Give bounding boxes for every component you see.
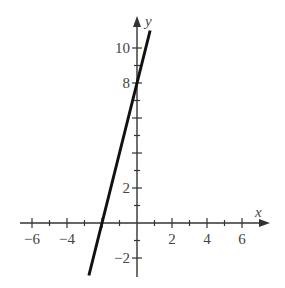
x-tick-label: 2	[168, 231, 176, 247]
y-tick-label: 10	[115, 40, 130, 56]
x-tick-label: −4	[59, 231, 75, 247]
y-axis-label: y	[143, 13, 152, 29]
y-tick-label: −2	[114, 250, 130, 266]
x-tick-label: 4	[203, 231, 211, 247]
coordinate-plane: −6−42461082−2 x y	[0, 0, 285, 288]
y-axis-arrow-icon	[133, 16, 141, 27]
x-tick-label: 6	[238, 231, 246, 247]
y-tick-label: 2	[123, 180, 131, 196]
x-tick-label: −6	[24, 231, 40, 247]
x-axis-arrow-icon	[259, 219, 270, 227]
y-tick-label: 8	[123, 75, 131, 91]
x-axis-label: x	[254, 204, 262, 220]
